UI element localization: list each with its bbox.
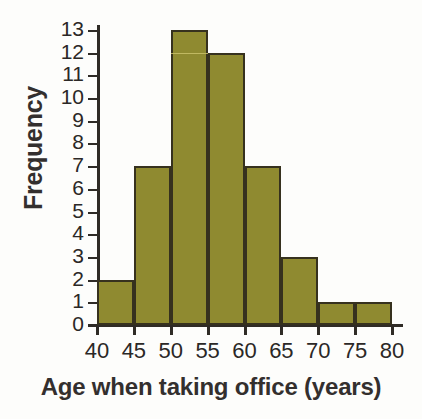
histogram-bar bbox=[245, 166, 282, 325]
y-tick-mark bbox=[88, 234, 97, 236]
y-tick-mark bbox=[88, 257, 97, 259]
histogram-bar bbox=[134, 166, 171, 325]
y-tick-label: 12 bbox=[61, 41, 84, 63]
y-tick-mark bbox=[88, 30, 97, 32]
y-tick-mark bbox=[88, 189, 97, 191]
y-tick-mark bbox=[88, 302, 97, 304]
histogram-bar bbox=[208, 53, 245, 325]
y-tick-mark bbox=[88, 143, 97, 145]
y-tick-label: 5 bbox=[72, 200, 84, 222]
y-tick-mark bbox=[88, 98, 97, 100]
y-tick-label: 6 bbox=[72, 177, 84, 199]
y-axis-title: Frequency bbox=[16, 68, 50, 228]
y-tick-label: 2 bbox=[72, 268, 84, 290]
x-tick-mark bbox=[133, 325, 136, 335]
histogram-figure: Frequency 131211109876543210 40455055606… bbox=[0, 0, 422, 419]
x-tick-mark bbox=[354, 325, 357, 335]
x-axis-title: Age when taking office (years) bbox=[0, 373, 422, 401]
x-tick-mark bbox=[391, 325, 394, 335]
scan-artifact-line bbox=[171, 53, 208, 54]
y-tick-label: 8 bbox=[72, 131, 84, 153]
histogram-bar bbox=[171, 30, 208, 325]
x-tick-mark bbox=[207, 325, 210, 335]
histogram-bar bbox=[281, 257, 318, 325]
y-tick-label: 7 bbox=[72, 154, 84, 176]
y-tick-label: 11 bbox=[62, 63, 84, 85]
y-tick-label: 9 bbox=[72, 109, 84, 131]
y-tick-mark bbox=[88, 53, 97, 55]
histogram-bar bbox=[97, 280, 134, 325]
y-tick-label: 0 bbox=[72, 313, 84, 335]
histogram-bar bbox=[355, 302, 392, 325]
x-tick-mark bbox=[244, 325, 247, 335]
histogram-bar bbox=[318, 302, 355, 325]
y-tick-label: 10 bbox=[61, 86, 84, 108]
y-tick-label: 1 bbox=[72, 290, 84, 312]
x-tick-mark bbox=[96, 325, 99, 335]
x-tick-mark bbox=[317, 325, 320, 335]
y-tick-mark bbox=[88, 166, 97, 168]
y-tick-mark bbox=[88, 121, 97, 123]
x-tick-label: 80 bbox=[370, 338, 414, 364]
y-tick-label: 4 bbox=[72, 222, 84, 244]
y-tick-mark bbox=[88, 280, 97, 282]
y-tick-label: 3 bbox=[72, 245, 84, 267]
x-tick-mark bbox=[170, 325, 173, 335]
y-tick-mark bbox=[88, 75, 97, 77]
x-tick-mark bbox=[280, 325, 283, 335]
y-tick-mark bbox=[88, 212, 97, 214]
y-tick-label: 13 bbox=[61, 18, 84, 40]
